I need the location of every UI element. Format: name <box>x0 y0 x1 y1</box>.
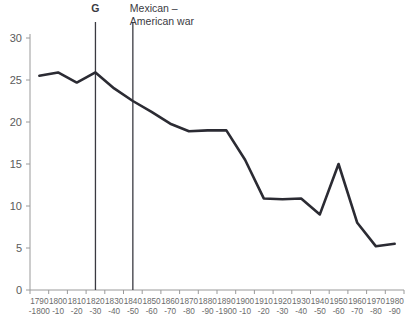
x-axis-tick-label-second-line: -40 <box>108 307 120 316</box>
x-axis-tick-label-second-line: -20 <box>258 307 270 316</box>
y-axis-tick-label: 20 <box>10 116 22 128</box>
x-axis-tick-label: 1970 <box>367 297 386 306</box>
y-axis-tick-label: 0 <box>16 284 22 296</box>
x-axis-tick-label: 1900 <box>236 297 255 306</box>
x-axis-tick-label: 1920 <box>273 297 292 306</box>
event-annotation-label: American war <box>130 15 195 27</box>
x-axis-tick-label-second-line: -10 <box>239 307 251 316</box>
x-axis-tick-label-second-line: -70 <box>164 307 176 316</box>
x-axis-tick-label: 1910 <box>255 297 274 306</box>
x-axis-tick-label-second-line: -30 <box>277 307 289 316</box>
data-series <box>39 72 394 246</box>
x-axis-tick-label: 1840 <box>124 297 143 306</box>
x-axis-tick-label-second-line: -1900 <box>216 307 237 316</box>
x-axis-tick-label: 1820 <box>86 297 105 306</box>
x-axis-tick-label: 1890 <box>217 297 236 306</box>
x-axis-tick-label-second-line: -50 <box>314 307 326 316</box>
y-axis-tick-label: 5 <box>16 242 22 254</box>
x-axis-tick-label: 1870 <box>180 297 199 306</box>
x-axis-tick-label-second-line: -30 <box>90 307 102 316</box>
x-axis-tick-label-second-line: -50 <box>127 307 139 316</box>
x-axis-tick-label-second-line: -60 <box>333 307 345 316</box>
x-axis-tick-label: 1800 <box>49 297 68 306</box>
x-axis-tick-label-second-line: -20 <box>71 307 83 316</box>
x-axis-tick-label-second-line: -90 <box>202 307 214 316</box>
x-axis-tick-label: 1810 <box>68 297 87 306</box>
y-axis-tick-label: 15 <box>10 158 22 170</box>
y-axis: 051015202530 <box>10 32 30 296</box>
x-axis-tick-label-second-line: -80 <box>370 307 382 316</box>
x-axis-tick-label-second-line: -1800 <box>29 307 50 316</box>
line-chart: 051015202530 1790-18001800-101810-201820… <box>0 0 410 317</box>
y-axis-tick-label: 30 <box>10 32 22 44</box>
y-axis-tick-label: 25 <box>10 74 22 86</box>
x-axis-tick-label: 1950 <box>329 297 348 306</box>
data-series-line <box>39 72 394 246</box>
x-axis-tick-label-second-line: -60 <box>146 307 158 316</box>
x-axis-tick-label: 1980 <box>386 297 405 306</box>
event-annotation-label: Mexican – <box>130 2 178 14</box>
x-axis-tick-label: 1850 <box>142 297 161 306</box>
x-axis-tick-label-second-line: -80 <box>183 307 195 316</box>
x-axis-tick-label: 1930 <box>292 297 311 306</box>
x-axis-tick-label-second-line: -40 <box>295 307 307 316</box>
y-axis-tick-label: 10 <box>10 200 22 212</box>
x-axis-tick-label: 1860 <box>161 297 180 306</box>
x-axis-tick-label: 1880 <box>199 297 218 306</box>
x-axis-tick-label-second-line: -10 <box>52 307 64 316</box>
x-axis-tick-label: 1940 <box>311 297 330 306</box>
x-axis: 1790-18001800-101810-201820-301830-40184… <box>29 290 404 316</box>
x-axis-tick-label-second-line: -70 <box>351 307 363 316</box>
event-annotation-label: G <box>91 2 99 14</box>
x-axis-tick-label: 1830 <box>105 297 124 306</box>
event-annotations: GMexican –American war <box>91 2 194 290</box>
x-axis-tick-label: 1960 <box>348 297 367 306</box>
x-axis-tick-label-second-line: -90 <box>389 307 401 316</box>
chart-container: 051015202530 1790-18001800-101810-201820… <box>0 0 410 317</box>
x-axis-tick-label: 1790 <box>30 297 49 306</box>
